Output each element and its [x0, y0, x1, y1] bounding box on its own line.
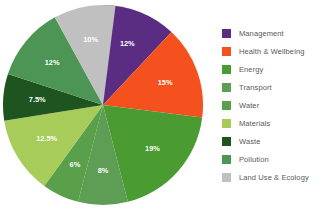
legend-color-swatch	[222, 137, 231, 146]
pie-slice-value-label: 12%	[120, 39, 135, 48]
pie-chart-plot: 12%15%19%8%6%12.5%7.5%12%10%	[2, 4, 208, 208]
pie-slice-value-label: 6%	[70, 160, 81, 169]
pie-slice-value-label: 15%	[158, 78, 173, 87]
legend-item-label: Energy	[239, 65, 263, 74]
legend-item-label: Transport	[239, 83, 272, 92]
legend-item[interactable]: Health & Wellbeing	[222, 42, 332, 60]
legend-color-swatch	[222, 83, 231, 92]
pie-slice-value-label: 12.5%	[36, 134, 57, 143]
legend-item-label: Management	[239, 29, 284, 38]
legend-item[interactable]: Pollution	[222, 150, 332, 168]
pie-slice-group	[3, 5, 203, 205]
legend-color-swatch	[222, 47, 231, 56]
legend-item-label: Materials	[239, 119, 270, 128]
legend-item[interactable]: Energy	[222, 60, 332, 78]
legend-color-swatch	[222, 101, 231, 110]
legend-item[interactable]: Transport	[222, 78, 332, 96]
pie-slice-value-label: 19%	[145, 144, 160, 153]
legend-item[interactable]: Land Use & Ecology	[222, 168, 332, 186]
legend-item-label: Pollution	[239, 155, 269, 164]
pie-slice-value-label: 8%	[98, 166, 109, 175]
legend-item-label: Water	[239, 101, 259, 110]
legend-item[interactable]: Management	[222, 24, 332, 42]
legend-color-swatch	[222, 173, 231, 182]
pie-chart-figure: 12%15%19%8%6%12.5%7.5%12%10% ManagementH…	[0, 0, 332, 212]
legend-item-label: Health & Wellbeing	[239, 47, 304, 56]
pie-chart-svg: 12%15%19%8%6%12.5%7.5%12%10%	[2, 4, 208, 208]
legend-item-label: Waste	[239, 137, 260, 146]
legend-color-swatch	[222, 155, 231, 164]
chart-legend: ManagementHealth & WellbeingEnergyTransp…	[222, 24, 332, 186]
legend-color-swatch	[222, 119, 231, 128]
pie-slice-value-label: 12%	[45, 58, 60, 67]
legend-color-swatch	[222, 65, 231, 74]
legend-item[interactable]: Water	[222, 96, 332, 114]
legend-item-label: Land Use & Ecology	[239, 173, 309, 182]
legend-item[interactable]: Materials	[222, 114, 332, 132]
legend-color-swatch	[222, 29, 231, 38]
legend-item[interactable]: Waste	[222, 132, 332, 150]
pie-slice-value-label: 7.5%	[29, 95, 46, 104]
pie-slice-value-label: 10%	[83, 35, 98, 44]
